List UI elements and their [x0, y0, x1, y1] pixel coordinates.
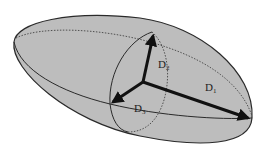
ellipsoid-diagram: D2 D1 D3: [0, 0, 267, 156]
ellipsoid-body: [14, 15, 252, 142]
